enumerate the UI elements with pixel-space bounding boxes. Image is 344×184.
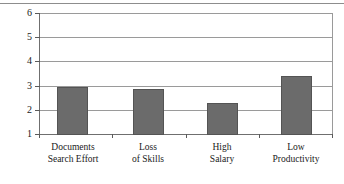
y-tick-label-6: 6 bbox=[10, 8, 32, 18]
y-tick-mark-2 bbox=[35, 110, 40, 111]
x-tick-mark-0 bbox=[39, 134, 40, 138]
x-tick-mark-2 bbox=[186, 134, 187, 138]
y-tick-label-1: 1 bbox=[10, 129, 32, 139]
bar-chart-figure: 6 5 4 3 2 1 Documents Search Effort Loss… bbox=[0, 0, 344, 184]
y-tick-mark-3 bbox=[35, 86, 40, 87]
y-tick-mark-4 bbox=[35, 61, 40, 62]
x-category-label-line-2: Productivity bbox=[249, 153, 343, 165]
y-tick-label-4: 4 bbox=[10, 56, 32, 66]
y-axis-line bbox=[39, 13, 40, 135]
gridline-6 bbox=[39, 13, 333, 14]
x-tick-mark-4 bbox=[332, 134, 333, 138]
gridline-4 bbox=[39, 61, 333, 62]
y-tick-label-2: 2 bbox=[10, 105, 32, 115]
bar-loss-of-skills bbox=[133, 89, 164, 135]
y-tick-mark-6 bbox=[35, 13, 40, 14]
x-category-label-low-productivity: Low Productivity bbox=[249, 141, 343, 165]
x-tick-mark-1 bbox=[112, 134, 113, 138]
y-tick-mark-5 bbox=[35, 37, 40, 38]
y-tick-label-5: 5 bbox=[10, 32, 32, 42]
bar-documents-search-effort bbox=[57, 87, 88, 135]
bar-low-productivity bbox=[281, 76, 312, 135]
bar-high-salary bbox=[207, 103, 238, 135]
x-tick-mark-3 bbox=[259, 134, 260, 138]
y-tick-label-3: 3 bbox=[10, 81, 32, 91]
plot-right-border bbox=[332, 13, 333, 135]
x-category-label-line-1: Low bbox=[249, 141, 343, 153]
gridline-5 bbox=[39, 37, 333, 38]
page-top-rule bbox=[0, 3, 344, 4]
